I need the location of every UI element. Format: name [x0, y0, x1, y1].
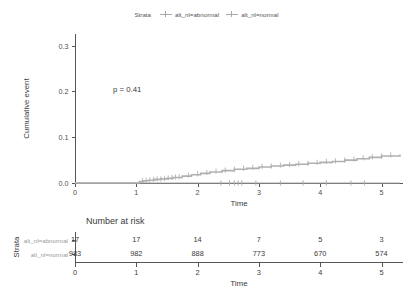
risk-x-axis-line	[75, 262, 403, 263]
risk-cell: 983	[69, 249, 81, 258]
risk-x-tick-label: 1	[134, 268, 138, 277]
risk-cell: 773	[253, 249, 265, 258]
y-tick-label: 0.3	[59, 41, 69, 50]
risk-row-label: alt_nl=normal	[31, 251, 68, 258]
risk-cell: 574	[375, 249, 387, 258]
y-axis-title: Cumulative event	[22, 34, 34, 183]
risk-cell: 17	[71, 235, 79, 244]
plot-area: 0.0 0.1 0.2 0.3 0 1 2 3 4 5	[75, 34, 403, 183]
x-tick-2	[198, 183, 199, 187]
risk-x-axis-title: Time	[75, 279, 403, 288]
risk-x-tick-label: 5	[379, 268, 383, 277]
legend-key-icon	[226, 11, 238, 18]
risk-cell: 670	[314, 249, 326, 258]
risk-x-tick-5	[382, 263, 383, 267]
risk-x-tick-label: 4	[318, 268, 322, 277]
x-tick-label: 3	[257, 188, 261, 197]
legend-entry-abnormal[interactable]: alt_nl=abnormal	[160, 11, 219, 18]
risk-strata-axis-title: Strata	[12, 232, 24, 262]
risk-x-tick-label: 3	[257, 268, 261, 277]
survival-curves	[75, 34, 403, 183]
x-tick-label: 5	[380, 188, 384, 197]
x-tick-3	[259, 183, 260, 187]
risk-table-grid: alt_nl=abnormal 17 17 14 7 5 3 alt_nl=no…	[75, 232, 403, 262]
legend-title: Strata	[134, 11, 151, 18]
x-tick-4	[320, 183, 321, 187]
x-tick-label: 2	[196, 188, 200, 197]
series-normal	[75, 152, 400, 183]
y-tick-label: 0.2	[59, 87, 69, 96]
risk-x-tick-3	[259, 263, 260, 267]
risk-cell: 982	[130, 249, 142, 258]
x-axis-title: Time	[75, 199, 403, 208]
risk-cell: 5	[318, 235, 322, 244]
risk-cell: 14	[193, 235, 201, 244]
legend-label: alt_nl=normal	[241, 11, 278, 18]
legend-label: alt_nl=abnormal	[175, 11, 219, 18]
risk-cell: 888	[191, 249, 203, 258]
risk-row-label: alt_nl=abnormal	[24, 237, 68, 244]
risk-table: Number at risk Strata alt_nl=abnormal 17…	[0, 214, 413, 305]
x-tick-label: 4	[318, 188, 322, 197]
risk-x-tick-1	[136, 263, 137, 267]
y-tick-label: 0.0	[59, 179, 69, 188]
risk-x-tick-label: 0	[73, 268, 77, 277]
risk-cell: 17	[132, 235, 140, 244]
y-tick-label: 0.1	[59, 133, 69, 142]
legend-entry-normal[interactable]: alt_nl=normal	[226, 11, 278, 18]
risk-x-tick-4	[320, 263, 321, 267]
p-value-annotation: p = 0.41	[113, 85, 141, 94]
legend: Strata alt_nl=abnormal alt_nl=normal	[0, 6, 413, 22]
x-tick-5	[382, 183, 383, 187]
risk-cell: 7	[257, 235, 261, 244]
risk-table-title: Number at risk	[86, 216, 145, 226]
x-tick-label: 0	[73, 188, 77, 197]
x-tick-label: 1	[134, 188, 138, 197]
survival-plot-figure: Strata alt_nl=abnormal alt_nl=normal Cum…	[0, 0, 413, 305]
risk-cell: 3	[379, 235, 383, 244]
risk-x-tick-2	[198, 263, 199, 267]
risk-x-tick-label: 2	[196, 268, 200, 277]
legend-key-icon	[160, 11, 172, 18]
risk-x-tick-0	[75, 263, 76, 267]
